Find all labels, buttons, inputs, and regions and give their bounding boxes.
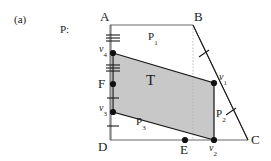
vertex-dot-v4 bbox=[110, 50, 116, 56]
region-label-P1: P1 bbox=[148, 31, 158, 45]
vertex-label-v4: v4 bbox=[99, 44, 107, 57]
vertex-label-B: B bbox=[194, 10, 203, 23]
tick-A-v4-icon bbox=[106, 35, 120, 41]
region-label-P1-subscript: 1 bbox=[154, 39, 158, 47]
vertex-label-F: F bbox=[98, 77, 105, 90]
vertex-label-v1-subscript: 1 bbox=[223, 79, 227, 87]
vertex-dot-F bbox=[110, 81, 116, 87]
vertex-dot-v1 bbox=[211, 80, 217, 86]
region-label-P3: P3 bbox=[136, 116, 146, 130]
vertex-label-v2: v2 bbox=[209, 143, 217, 156]
vertex-label-A: A bbox=[100, 10, 109, 23]
vertex-label-D: D bbox=[98, 140, 107, 153]
vertex-label-v3: v3 bbox=[99, 103, 107, 116]
region-label-T: T bbox=[146, 73, 155, 88]
region-label-P2-subscript: 2 bbox=[222, 116, 226, 124]
figure-container: (a) P: A B C D E F v4 v1 v2 v3 P1 P2 P3 … bbox=[0, 0, 271, 161]
vertex-dot-v3 bbox=[110, 109, 116, 115]
vertex-label-C: C bbox=[251, 133, 260, 146]
region-label-P3-subscript: 3 bbox=[142, 124, 146, 132]
polygon-diagram-svg bbox=[0, 0, 271, 161]
panel-label: (a) bbox=[14, 14, 26, 25]
vertex-label-v3-subscript: 3 bbox=[103, 110, 107, 118]
vertex-label-v2-subscript: 2 bbox=[213, 150, 217, 158]
vertex-label-v4-subscript: 4 bbox=[103, 51, 107, 59]
vertex-label-v1: v1 bbox=[219, 72, 227, 85]
polygon-name-label: P: bbox=[60, 24, 69, 35]
vertex-label-E: E bbox=[180, 143, 188, 156]
shaded-trapezoid-T bbox=[113, 53, 214, 140]
region-label-P2: P2 bbox=[216, 108, 226, 122]
